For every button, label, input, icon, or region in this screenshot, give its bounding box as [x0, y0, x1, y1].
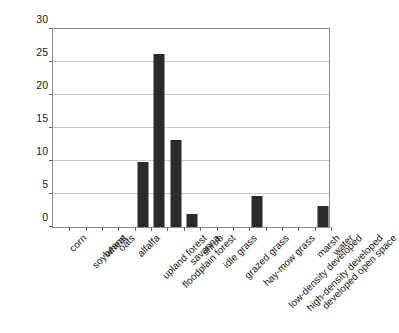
y-tick-label: 0 [2, 211, 48, 222]
x-tick-mark [151, 227, 152, 231]
y-tick-label: 25 [2, 46, 48, 57]
bar [317, 206, 328, 227]
bar-slot [102, 29, 118, 227]
bar-slot [167, 29, 183, 227]
x-tick-mark [233, 227, 234, 231]
x-tick-mark [167, 227, 168, 231]
x-tick-mark [86, 227, 87, 231]
y-tick-label: 15 [2, 112, 48, 123]
x-tick-mark [282, 227, 283, 231]
x-tick-mark [331, 227, 332, 231]
x-tick-mark [266, 227, 267, 231]
x-tick-label: corn [68, 233, 89, 254]
bar-slot [86, 29, 102, 227]
bars-layer [53, 29, 329, 227]
x-tick-mark [315, 227, 316, 231]
x-tick-mark [298, 227, 299, 231]
bar [170, 140, 181, 227]
bar [154, 54, 165, 227]
bar-slot [200, 29, 216, 227]
x-axis-labels: cornsoybeanswheatoatsalfalfaupland fores… [52, 233, 330, 333]
x-tick-mark [102, 227, 103, 231]
y-tick-label: 30 [2, 13, 48, 24]
y-tick-label: 5 [2, 178, 48, 189]
bar-slot [151, 29, 167, 227]
x-tick-mark [118, 227, 119, 231]
bar [252, 196, 263, 227]
x-tick-mark [135, 227, 136, 231]
x-tick-mark [200, 227, 201, 231]
bar-slot [249, 29, 265, 227]
bar-slot [266, 29, 282, 227]
bar-slot [217, 29, 233, 227]
bar-slot [69, 29, 85, 227]
plot-area: 051015202530 [52, 28, 330, 228]
bar-slot [233, 29, 249, 227]
bar-slot [298, 29, 314, 227]
bar-slot [53, 29, 69, 227]
x-tick-mark [184, 227, 185, 231]
bar-slot [282, 29, 298, 227]
x-tick-mark [249, 227, 250, 231]
bar-slot [315, 29, 331, 227]
x-tick-mark [69, 227, 70, 231]
y-tick-label: 10 [2, 145, 48, 156]
x-tick-mark [217, 227, 218, 231]
bar-slot [184, 29, 200, 227]
bar [137, 162, 148, 227]
bar [186, 214, 197, 227]
y-tick-label: 20 [2, 79, 48, 90]
bar-slot [135, 29, 151, 227]
x-tick-label: alfalfa [135, 233, 161, 259]
bar-slot [118, 29, 134, 227]
